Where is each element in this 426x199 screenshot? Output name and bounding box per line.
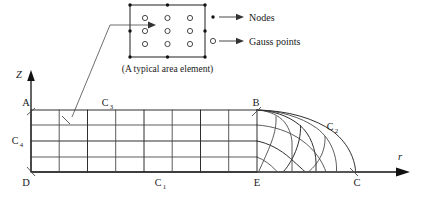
legend-item-nodes: Nodes	[211, 12, 274, 23]
legend-item-gauss-points: Gauss points	[210, 36, 300, 47]
r-axis-label: r	[398, 151, 403, 162]
label-boundary-C2: C 2	[327, 121, 339, 134]
legend-node-marker-icon	[211, 15, 214, 18]
r-axis-arrowhead	[396, 168, 410, 177]
label-boundary-C4-sub: 4	[20, 141, 24, 148]
node-mid-left	[128, 29, 131, 32]
label-boundary-C2-sub: 2	[335, 127, 339, 134]
detail-callout-group: (A typical area element)	[72, 3, 213, 117]
legend-label-gauss-points: Gauss points	[249, 36, 301, 47]
label-boundary-C4: C 4	[12, 135, 24, 148]
gauss-point	[165, 15, 170, 20]
curved-mesh-region	[257, 110, 356, 172]
label-point-C: C	[353, 177, 360, 188]
label-point-D: D	[22, 177, 30, 188]
label-boundary-C1-sub: 1	[163, 183, 166, 190]
z-axis-label: Z	[16, 69, 22, 80]
gauss-point	[142, 41, 147, 46]
node-mid-right	[203, 29, 206, 32]
mesh-labels-group: A D B E C C 1 C 2 C 3 C 4	[12, 97, 361, 190]
tick-leader-anchor	[62, 116, 70, 124]
element-gauss-points-group	[142, 15, 192, 46]
gauss-point	[187, 15, 192, 20]
node-corner-top-left	[128, 3, 131, 6]
label-boundary-C3: C 3	[102, 97, 114, 110]
element-caption: (A typical area element)	[122, 64, 214, 75]
callout-arrowhead	[148, 22, 156, 29]
curved-arc-2	[257, 110, 316, 172]
gauss-point	[142, 15, 147, 20]
node-corner-bottom-right	[203, 55, 206, 58]
label-boundary-C3-base: C	[102, 97, 109, 108]
axes-group: Z r	[16, 69, 410, 176]
gauss-point	[187, 41, 192, 46]
node-corner-top-right	[203, 3, 206, 6]
legend-group: Nodes Gauss points	[210, 12, 300, 47]
label-boundary-C1-base: C	[155, 177, 162, 188]
fem-mesh-figure: (A typical area element) Nodes Gauss poi…	[0, 0, 426, 199]
gauss-point	[165, 28, 170, 33]
curved-radial-3	[257, 157, 279, 172]
label-boundary-C1: C 1	[155, 177, 167, 190]
z-axis-arrowhead	[27, 70, 35, 81]
legend-gauss-arrowhead	[236, 38, 244, 44]
gauss-point	[187, 28, 192, 33]
node-mid-top	[166, 3, 169, 6]
node-mid-bottom	[166, 55, 169, 58]
figure-root: (A typical area element) Nodes Gauss poi…	[0, 0, 426, 199]
label-boundary-C3-sub: 3	[110, 103, 114, 110]
node-corner-bottom-left	[128, 55, 131, 58]
legend-gauss-marker-icon	[210, 38, 215, 43]
label-boundary-C2-base: C	[327, 121, 334, 132]
legend-label-nodes: Nodes	[249, 12, 275, 23]
label-point-E: E	[254, 177, 260, 188]
legend-nodes-arrowhead	[236, 14, 244, 20]
gauss-point	[165, 41, 170, 46]
gauss-point	[142, 28, 147, 33]
label-point-A: A	[22, 97, 30, 108]
label-boundary-C4-base: C	[12, 135, 19, 146]
label-point-B: B	[252, 97, 259, 108]
